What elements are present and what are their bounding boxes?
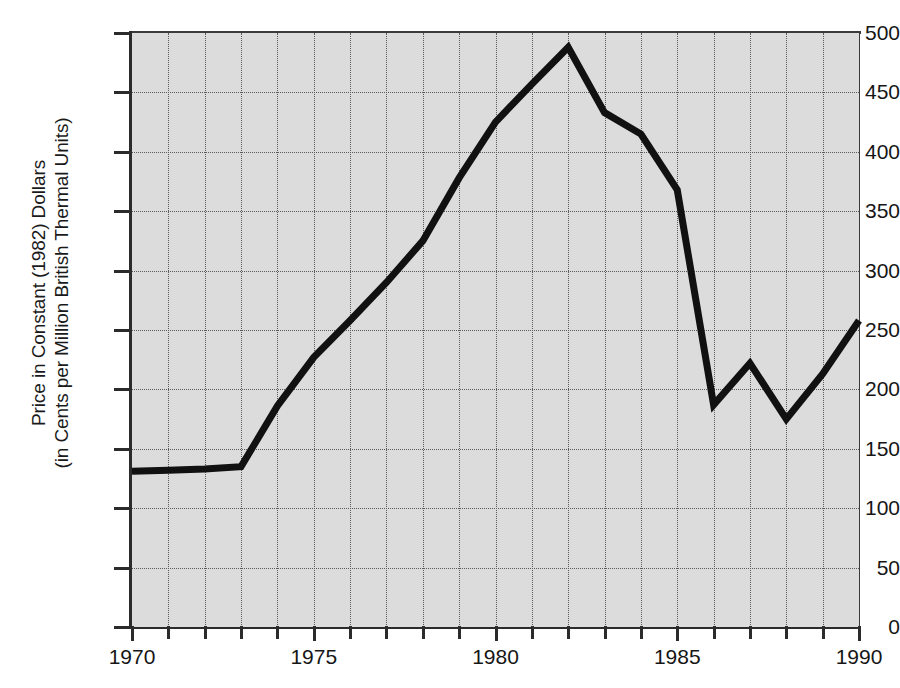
chart-figure: Price in Constant (1982) Dollars (in Cen… (0, 0, 900, 688)
y-tick-label: 300 (792, 259, 900, 283)
y-tick-label: 500 (792, 21, 900, 45)
y-tick-label: 100 (792, 496, 900, 520)
y-tick (114, 32, 131, 35)
y-tick-label: 400 (792, 140, 900, 164)
y-tick (114, 91, 131, 94)
y-tick (114, 210, 131, 213)
y-tick (114, 448, 131, 451)
y-tick (114, 507, 131, 510)
x-tick-minor (276, 626, 279, 639)
x-tick-minor (749, 626, 752, 639)
x-tick-major (313, 626, 316, 641)
x-tick-minor (531, 626, 534, 639)
y-tick (114, 567, 131, 570)
x-tick-label: 1990 (836, 645, 883, 669)
scan-edge-artifact (0, 681, 900, 688)
x-tick-label: 1980 (472, 645, 519, 669)
x-tick-minor (240, 626, 243, 639)
y-tick (114, 626, 131, 629)
x-tick-major (676, 626, 679, 641)
y-axis-title-line-1: Price in Constant (1982) Dollars (27, 23, 50, 563)
x-tick-major (131, 626, 134, 641)
x-tick-minor (713, 626, 716, 639)
y-tick (114, 388, 131, 391)
x-tick-minor (567, 626, 570, 639)
x-tick-minor (385, 626, 388, 639)
x-tick-minor (349, 626, 352, 639)
x-tick-major (495, 626, 498, 641)
x-tick-label: 1975 (290, 645, 337, 669)
x-tick-minor (422, 626, 425, 639)
x-tick-major (858, 626, 861, 641)
x-tick-minor (458, 626, 461, 639)
data-series-line (132, 33, 859, 627)
plot-area (132, 33, 859, 627)
x-tick-label: 1970 (109, 645, 156, 669)
y-tick-label: 150 (792, 437, 900, 461)
x-tick-minor (785, 626, 788, 639)
y-tick (114, 151, 131, 154)
y-axis-title: Price in Constant (1982) Dollars (in Cen… (0, 0, 100, 628)
y-tick-label: 250 (792, 318, 900, 342)
x-tick-minor (604, 626, 607, 639)
y-tick-label: 450 (792, 80, 900, 104)
y-tick (114, 329, 131, 332)
x-tick-label: 1985 (654, 645, 701, 669)
y-tick-label: 350 (792, 199, 900, 223)
x-tick-minor (822, 626, 825, 639)
y-tick-label: 50 (792, 556, 900, 580)
x-tick-minor (204, 626, 207, 639)
x-tick-minor (640, 626, 643, 639)
x-tick-minor (167, 626, 170, 639)
y-tick-label: 200 (792, 377, 900, 401)
y-axis-title-line-2: (in Cents per Million British Thermal Un… (50, 23, 73, 563)
y-tick-label: 0 (792, 615, 900, 639)
y-tick (114, 270, 131, 273)
